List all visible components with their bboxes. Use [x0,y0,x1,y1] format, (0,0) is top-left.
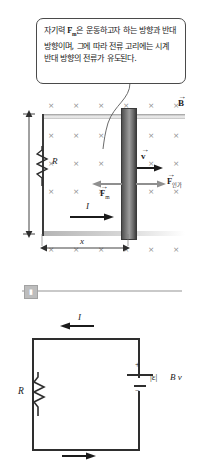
explanation-callout: 자기력 →Fm은 운동하고자 하는 방향과 반대 방향이며, 그에 따라 전류 … [36,18,186,84]
loop-height-dimension [22,110,36,238]
battery-plus-label: + [135,360,140,369]
width-label-x: x [80,236,84,246]
current-arrow-icon-top [70,213,114,221]
callout-text-pre: 자기력 [44,25,67,35]
field-marker: × [148,132,154,140]
magnetic-force-subscript: m [105,194,109,200]
battery-minus-label: − [135,386,140,395]
resistor-symbol-top [36,146,56,186]
callout-text: 자기력 →Fm은 운동하고자 하는 방향과 반대 방향이며, 그에 따라 전류 … [44,24,179,65]
field-marker: × [173,188,179,196]
circuit-top-wire [32,338,140,340]
field-marker: × [98,160,104,168]
field-marker: × [148,102,154,110]
vector-arrow-icon: → [141,145,149,154]
field-marker: × [48,132,54,140]
applied-force-arrow-icon [136,180,166,188]
handle-glyph-icon: ▮ [29,289,33,296]
field-marker: × [73,102,79,110]
field-marker: × [48,102,54,110]
field-marker: × [173,132,179,140]
vector-arrow-icon: → [100,182,108,191]
circuit-right-wire-upper [138,338,140,378]
field-marker: × [73,132,79,140]
force-vector-inline: →Fm [67,26,76,35]
velocity-label: →v [141,151,146,161]
field-marker: × [73,188,79,196]
current-label-top: I [86,201,89,211]
circuit-bottom-wire [32,449,140,451]
vector-arrow-icon: → [178,92,186,101]
section-divider [22,290,182,292]
resistor-label-bottom: R [18,386,24,396]
magnetic-force-label: →Fm [100,188,110,200]
vector-arrow-icon: → [67,21,74,33]
emf-value-label: B v [170,372,182,382]
current-arrow-icon-bottom-bottom [62,452,96,460]
field-marker: × [48,188,54,196]
rail-circuit-diagram: × × × × × × × × × × × × × × × × × × × × … [0,96,198,276]
field-marker: × [148,188,154,196]
applied-force-label: →F인가 [167,176,182,188]
field-marker: × [173,160,179,168]
magnetic-field-label: →B [178,98,184,108]
field-marker: × [73,160,79,168]
field-marker: × [148,246,154,254]
resistor-label-top: R [52,156,58,166]
vector-arrow-icon: → [167,170,175,179]
resistor-symbol-bottom [33,372,53,416]
field-marker: × [173,246,179,254]
circuit-right-wire-lower [138,391,140,450]
divider-handle-button[interactable]: ▮ [24,285,38,299]
equivalent-circuit-diagram: I R + − |ε| B v [0,300,198,450]
callout-pointer-tail [100,83,140,149]
emf-magnitude-label: |ε| [150,372,157,382]
current-label-bottom: I [78,312,81,322]
velocity-arrow-icon [137,164,163,172]
width-extension-lines [40,234,130,246]
applied-force-subscript: 인가 [172,182,182,188]
current-arrow-icon-bottom-top [60,322,94,330]
